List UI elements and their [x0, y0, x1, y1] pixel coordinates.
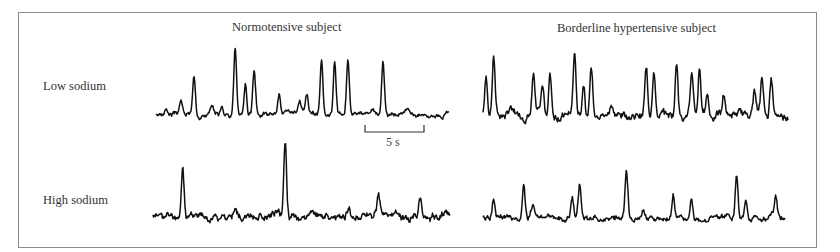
row-label-high-sodium: High sodium — [43, 193, 108, 208]
trace-borderline-high-sodium — [483, 158, 785, 224]
column-title-borderline: Borderline hypertensive subject — [557, 21, 716, 36]
trace-borderline-low-sodium — [483, 46, 788, 121]
trace-normotensive-high-sodium — [153, 139, 450, 222]
scale-bar — [364, 124, 426, 134]
trace-normotensive-low-sodium — [156, 44, 449, 120]
scale-bar-label: 5 s — [386, 135, 400, 150]
row-label-low-sodium: Low sodium — [43, 79, 106, 94]
column-title-normotensive: Normotensive subject — [232, 20, 341, 35]
